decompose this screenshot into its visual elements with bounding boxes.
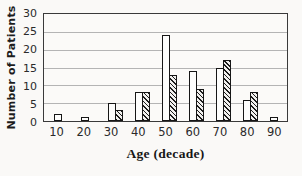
x-tick-label-60: 60 — [179, 126, 206, 140]
bar-group-50 — [152, 14, 179, 121]
hatched-bar-40 — [142, 92, 150, 121]
bar-group-20 — [71, 14, 98, 121]
x-tick-label-90: 90 — [261, 126, 288, 140]
y-tick-label-5: 5 — [30, 98, 37, 109]
bar-group-30 — [98, 14, 125, 121]
y-axis-tick-labels: 051015202530 — [0, 13, 40, 122]
hatched-bar-60 — [196, 89, 204, 121]
y-tick-label-20: 20 — [23, 44, 37, 55]
hatched-bar-30 — [115, 110, 123, 121]
hatched-bar-50 — [169, 75, 177, 121]
bar-group-10 — [44, 14, 71, 121]
y-tick-label-0: 0 — [30, 117, 37, 128]
x-tick-label-20: 20 — [70, 126, 97, 140]
open-bar-20 — [81, 117, 89, 121]
x-tick-label-50: 50 — [152, 126, 179, 140]
x-axis-tick-labels: 102030405060708090 — [43, 126, 288, 140]
x-tick-label-10: 10 — [43, 126, 70, 140]
open-bar-10 — [54, 114, 62, 121]
x-tick-label-30: 30 — [97, 126, 124, 140]
bar-group-60 — [179, 14, 206, 121]
bar-group-40 — [125, 14, 152, 121]
x-axis-title: Age (decade) — [43, 146, 288, 162]
bar-group-80 — [233, 14, 260, 121]
plot-area — [43, 13, 288, 122]
y-tick-label-10: 10 — [23, 80, 37, 91]
open-bar-90 — [270, 117, 278, 121]
y-tick-label-15: 15 — [23, 62, 37, 73]
bar-group-70 — [206, 14, 233, 121]
y-tick-label-25: 25 — [23, 26, 37, 37]
x-tick-label-70: 70 — [206, 126, 233, 140]
hatched-bar-70 — [223, 60, 231, 121]
hatched-bar-80 — [250, 92, 258, 121]
y-tick-label-30: 30 — [23, 8, 37, 19]
x-tick-label-40: 40 — [125, 126, 152, 140]
bar-group-90 — [260, 14, 287, 121]
x-tick-label-80: 80 — [234, 126, 261, 140]
bar-chart-figure: Number of Patients 051015202530 10203040… — [0, 0, 302, 176]
